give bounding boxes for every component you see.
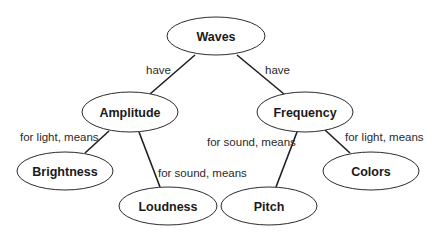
node-label-colors: Colors — [351, 165, 391, 179]
node-label-pitch: Pitch — [254, 200, 285, 214]
node-colors: Colors — [323, 152, 419, 190]
node-label-brightness: Brightness — [32, 165, 97, 179]
edge-label-amplitude-loudness: for sound, means — [158, 167, 247, 179]
node-brightness: Brightness — [17, 152, 113, 190]
node-label-waves: Waves — [196, 30, 235, 44]
node-label-amplitude: Amplitude — [99, 106, 160, 120]
edge-label-frequency-colors: for light, means — [345, 131, 424, 143]
node-label-loudness: Loudness — [138, 200, 197, 214]
concept-map: have have for light, means for sound, me… — [0, 0, 436, 238]
node-pitch: Pitch — [221, 187, 317, 225]
node-frequency: Frequency — [257, 92, 353, 132]
node-amplitude: Amplitude — [82, 92, 178, 132]
node-label-frequency: Frequency — [273, 106, 336, 120]
edge-label-frequency-pitch: for sound, means — [207, 136, 296, 148]
edge-label-waves-frequency: have — [265, 64, 290, 76]
edge-amplitude-loudness — [139, 132, 160, 187]
edge-label-waves-amplitude: have — [146, 64, 171, 76]
edge-label-amplitude-brightness: for light, means — [20, 131, 99, 143]
node-loudness: Loudness — [119, 187, 217, 225]
node-waves: Waves — [167, 17, 265, 55]
